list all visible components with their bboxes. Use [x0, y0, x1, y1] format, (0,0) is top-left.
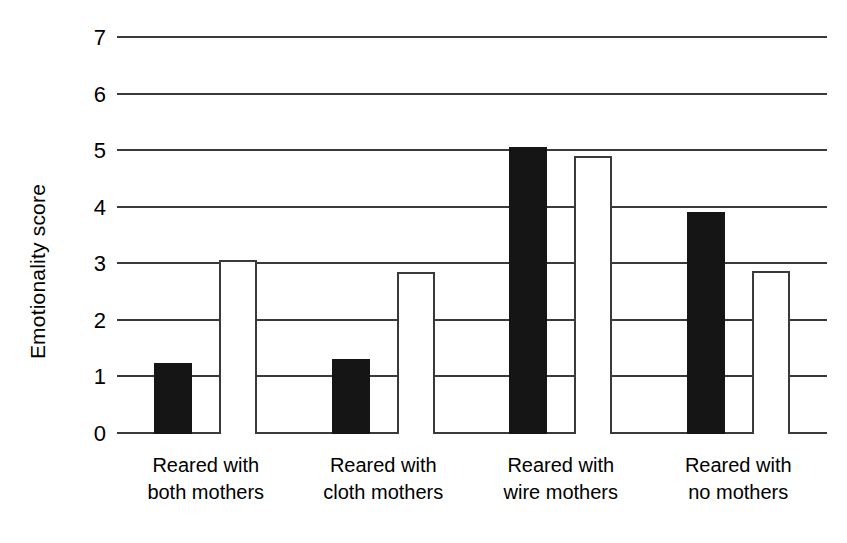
category-label-line-2: no mothers	[650, 479, 828, 506]
category-label-line-2: both mothers	[117, 479, 295, 506]
category-label-line-1: Reared with	[152, 454, 259, 476]
bar-open-group-3	[574, 156, 612, 434]
bar-filled-group-2	[332, 359, 370, 434]
y-axis-title: Emotionality score	[18, 0, 58, 543]
bar-open-group-1	[219, 260, 257, 434]
category-label-1: Reared withboth mothers	[117, 452, 295, 506]
x-axis-category-labels: Reared withboth mothersReared withcloth …	[117, 452, 827, 532]
bar-chart-figure: Emotionality score 01234567 Reared withb…	[0, 0, 847, 543]
y-tick-label: 3	[94, 253, 106, 275]
category-label-line-1: Reared with	[507, 454, 614, 476]
y-tick-label: 4	[94, 197, 106, 219]
y-tick-label: 7	[94, 27, 106, 49]
category-label-2: Reared withcloth mothers	[295, 452, 473, 506]
y-tick-label: 6	[94, 84, 106, 106]
bar-open-group-4	[752, 271, 790, 434]
bar-filled-group-4	[687, 212, 725, 434]
plot-area: 01234567	[117, 38, 827, 434]
y-tick-label: 1	[94, 366, 106, 388]
y-tick-label: 0	[94, 423, 106, 445]
category-label-line-2: wire mothers	[472, 479, 650, 506]
bar-series-group	[117, 38, 827, 434]
bar-filled-group-1	[154, 363, 192, 434]
y-tick-label: 5	[94, 140, 106, 162]
category-label-4: Reared withno mothers	[650, 452, 828, 506]
y-axis-title-text: Emotionality score	[26, 184, 50, 359]
bar-filled-group-3	[509, 147, 547, 434]
category-label-line-2: cloth mothers	[295, 479, 473, 506]
category-label-3: Reared withwire mothers	[472, 452, 650, 506]
bar-open-group-2	[397, 272, 435, 434]
y-tick-label: 2	[94, 310, 106, 332]
category-label-line-1: Reared with	[330, 454, 437, 476]
category-label-line-1: Reared with	[685, 454, 792, 476]
